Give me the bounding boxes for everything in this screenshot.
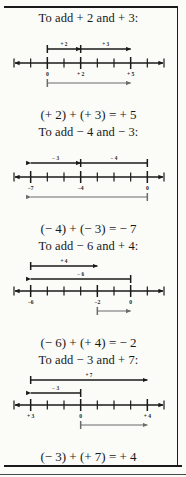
number-line-diagram: −7−40− 3− 4 [8,141,170,220]
svg-text:−6: −6 [27,299,33,305]
section-equation: (− 3) + (+ 7) = + 4 [40,449,136,465]
section-add-minus3-plus7: To add − 3 and + 7: + 30+ 4+ 7− 3 (− 3) … [5,351,172,465]
section-heading: To add − 3 and + 7: [39,353,139,368]
svg-text:−2: −2 [94,299,100,305]
sections-container: To add + 2 and + 3: 0+ 2+ 5+ 2+ 3 (+ 2) … [5,9,172,465]
svg-text:+ 3: + 3 [102,41,109,47]
svg-text:0: 0 [129,299,132,305]
svg-text:+ 4: + 4 [60,258,67,264]
worksheet-page: To add + 2 and + 3: 0+ 2+ 5+ 2+ 3 (+ 2) … [0,0,186,477]
svg-text:−7: −7 [27,185,33,191]
svg-text:− 3: − 3 [52,155,59,161]
top-rule [4,6,178,8]
svg-text:+ 4: + 4 [143,413,151,419]
section-equation: (− 6) + (+ 4) = − 2 [40,335,136,351]
bottom-rule [4,465,182,467]
svg-text:+ 5: + 5 [126,71,134,77]
svg-text:0: 0 [145,185,148,191]
svg-text:0: 0 [79,413,82,419]
section-equation: (− 4) + (− 3) = − 7 [40,221,136,237]
number-line-diagram: −6−20+ 4− 6 [8,255,170,334]
number-line-diagram: + 30+ 4+ 7− 3 [8,369,170,448]
svg-text:+ 2: + 2 [60,41,67,47]
section-add-minus4-minus3: To add − 4 and − 3: −7−40− 3− 4 (− 4) + … [5,123,172,237]
svg-text:− 4: − 4 [110,155,117,161]
section-add-minus6-plus4: To add − 6 and + 4: −6−20+ 4− 6 (− 6) + … [5,237,172,351]
section-heading: To add + 2 and + 3: [39,11,139,26]
section-equation: (+ 2) + (+ 3) = + 5 [40,107,136,123]
section-add-plus2-plus3: To add + 2 and + 3: 0+ 2+ 5+ 2+ 3 (+ 2) … [5,9,172,123]
svg-text:− 6: − 6 [77,271,84,277]
svg-text:0: 0 [45,71,48,77]
section-heading: To add − 4 and − 3: [39,125,139,140]
svg-text:− 3: − 3 [52,385,59,391]
section-heading: To add − 6 and + 4: [39,239,139,254]
number-line-diagram: 0+ 2+ 5+ 2+ 3 [8,27,170,106]
svg-text:+ 7: + 7 [85,372,92,378]
svg-text:+ 3: + 3 [26,413,34,419]
svg-text:+ 2: + 2 [76,71,84,77]
bottom-rule-secondary [0,474,186,475]
svg-text:−4: −4 [77,185,83,191]
right-rule [177,6,178,467]
